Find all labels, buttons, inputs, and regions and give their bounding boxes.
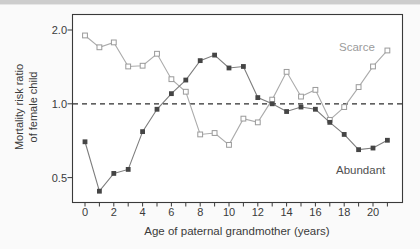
x-tick-label-10: 10	[217, 206, 241, 218]
abundant-data-point	[212, 53, 217, 58]
y-axis-title-line1: Mortality risk ratio	[13, 27, 27, 187]
x-tick-label-12: 12	[246, 206, 270, 218]
x-tick-label-6: 6	[159, 206, 183, 218]
abundant-data-point	[356, 147, 361, 152]
abundant-data-point	[169, 91, 174, 96]
abundant-data-point	[183, 78, 188, 83]
y-axis-title-line2: of female child	[27, 27, 41, 187]
scarce-data-point	[97, 45, 102, 50]
abundant-data-point	[83, 139, 88, 144]
x-tick-label-18: 18	[332, 206, 356, 218]
abundant-data-point	[284, 109, 289, 114]
abundant-data-point	[155, 107, 160, 112]
x-tick-label-4: 4	[131, 206, 155, 218]
abundant-data-point	[111, 171, 116, 176]
scarce-data-point	[356, 85, 361, 90]
y-tick-label-1.0: 1.0	[45, 98, 67, 110]
abundant-data-point	[126, 167, 131, 172]
scarce-data-point	[241, 116, 246, 121]
y-axis-title: Mortality risk ratio of female child	[13, 27, 41, 187]
x-tick-label-0: 0	[73, 206, 97, 218]
abundant-data-point	[198, 58, 203, 63]
scarce-data-point	[227, 142, 232, 147]
scarce-data-point	[212, 131, 217, 136]
abundant-data-point	[227, 66, 232, 71]
y-tick-label-0.5: 0.5	[45, 172, 67, 184]
abundant-data-point	[313, 107, 318, 112]
scarce-data-point	[169, 77, 174, 82]
abundant-data-point	[342, 132, 347, 137]
scarce-data-point	[371, 64, 376, 69]
x-tick-label-20: 20	[361, 206, 385, 218]
abundant-data-point	[327, 120, 332, 125]
x-tick-label-16: 16	[303, 206, 327, 218]
abundant-data-point	[299, 105, 304, 110]
scarce-data-point	[255, 120, 260, 125]
abundant-data-point	[270, 101, 275, 106]
scarce-data-point	[155, 51, 160, 56]
scarce-data-point	[284, 69, 289, 74]
abundant-data-point	[97, 189, 102, 194]
x-tick-label-14: 14	[275, 206, 299, 218]
scarce-data-point	[313, 87, 318, 92]
abundant-data-point	[371, 146, 376, 151]
x-tick-label-2: 2	[102, 206, 126, 218]
y-tick-label-2.0: 2.0	[45, 24, 67, 36]
scarce-data-point	[183, 89, 188, 94]
abundant-data-point	[385, 138, 390, 143]
scarce-data-point	[385, 48, 390, 53]
scarce-data-point	[83, 33, 88, 38]
abundant-data-point	[255, 95, 260, 100]
abundant-data-point	[241, 64, 246, 69]
abundant-data-point	[140, 129, 145, 134]
scarce-data-point	[140, 63, 145, 68]
x-axis-title: Age of paternal grandmother (years)	[87, 225, 387, 237]
scarce-data-point	[299, 94, 304, 99]
scarce-data-point	[270, 97, 275, 102]
mortality-risk-chart: Mortality risk ratio of female child Age…	[0, 0, 420, 249]
scarce-data-point	[342, 105, 347, 110]
scarce-data-point	[126, 64, 131, 69]
scarce-series-label: Scarce	[339, 41, 375, 53]
x-tick-label-8: 8	[188, 206, 212, 218]
abundant-series-label: Abundant	[336, 164, 385, 176]
scarce-data-point	[198, 132, 203, 137]
scarce-data-point	[111, 40, 116, 45]
